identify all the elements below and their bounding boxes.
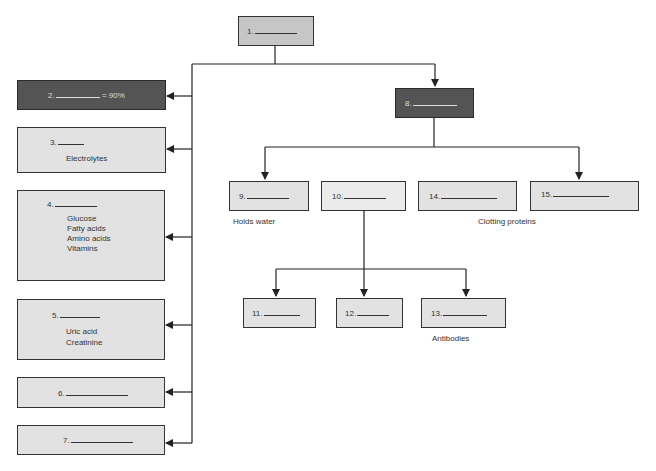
blood-composition-diagram: 1. 2. = 90% 3. Electrolytes 4. Glucose F… [0,0,656,471]
box-4-example: Vitamins [67,243,98,254]
box-11: 11. [243,298,316,328]
box-13-label: 13. [431,308,487,319]
box-14-label: 14. [429,191,497,202]
box-3-label: 3. [50,137,84,148]
box-7: 7. [17,425,165,455]
box-1-blood: 1. [238,16,314,46]
box-4-label: 4. [47,199,97,210]
box-8-plasma-proteins: 8. [395,88,474,118]
box-15: 15. [530,181,639,211]
box-10: 10. [321,181,406,211]
box-14: 14. [418,181,517,211]
box-1-label: 1. [247,26,297,37]
box-10-label: 10. [332,191,386,202]
box-6: 6. [17,377,165,408]
box-2-water: 2. = 90% [17,80,166,110]
box-12-label: 12. [345,308,389,319]
box-5-label: 5. [52,310,100,321]
box-5-example: Creatinine [66,337,102,348]
box-4-nutrients: 4. Glucose Fatty acids Amino acids Vitam… [17,190,165,281]
box-6-label: 6. [58,388,128,399]
caption-clotting-proteins: Clotting proteins [478,217,536,226]
box-13: 13. [421,298,506,328]
box-5-wastes: 5. Uric acid Creatinine [17,299,165,360]
caption-antibodies: Antibodies [432,334,469,343]
box-7-label: 7. [63,435,133,446]
box-12: 12. [336,298,403,328]
box-9-label: 9. [239,191,289,202]
box-15-label: 15. [541,189,609,200]
caption-holds-water: Holds water [233,217,275,226]
box-3-electrolytes: 3. Electrolytes [17,127,166,173]
box-8-label: 8. [405,98,457,109]
box-9: 9. [229,181,309,211]
box-11-label: 11. [252,308,300,319]
box-5-example: Uric acid [66,326,97,337]
box-3-example: Electrolytes [66,153,107,164]
box-2-label: 2. = 90% [48,90,125,101]
